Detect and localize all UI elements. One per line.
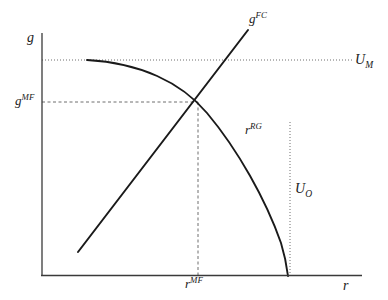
y-axis-label: g: [27, 31, 34, 45]
plot-canvas: [0, 0, 388, 300]
guide-label-um: UM: [355, 53, 373, 70]
curve-label-gfc: gFC: [249, 11, 267, 25]
curve-label-rrg: rRG: [245, 122, 262, 136]
x-axis-label: r: [343, 279, 348, 293]
economics-diagram: g r gFC rRG UM UO gMF rMF: [0, 0, 388, 300]
guide-label-gmf: gMF: [15, 93, 34, 107]
guide-label-rmf: rMF: [185, 276, 203, 290]
curve-gfc: [78, 30, 248, 252]
curve-rrg: [87, 60, 288, 276]
guide-label-uo: UO: [295, 182, 312, 199]
